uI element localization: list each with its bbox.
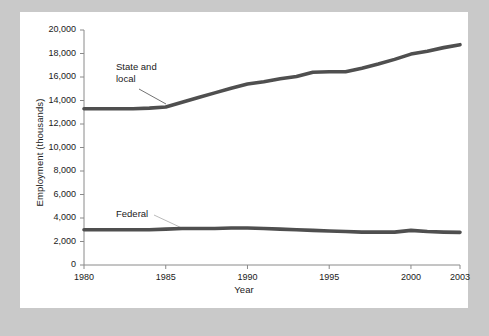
y-axis-tick-label: 12,000 xyxy=(28,118,76,128)
x-axis-tick-label: 1980 xyxy=(61,272,107,282)
y-axis-tick-label: 4,000 xyxy=(28,212,76,222)
x-axis-tick-label: 1995 xyxy=(306,272,352,282)
series-annotation-federal: Federal xyxy=(116,208,148,220)
series-annotation-state-and-local: State and local xyxy=(116,61,157,84)
plot-svg xyxy=(20,12,468,308)
x-axis-tick-label: 2000 xyxy=(388,272,434,282)
chart-card: Employment (thousands) Year State and lo… xyxy=(20,12,468,308)
series-line-federal xyxy=(84,228,460,232)
chart-plot-area: Employment (thousands) Year State and lo… xyxy=(20,12,468,308)
y-axis-tick-label: 8,000 xyxy=(28,165,76,175)
y-axis-tick-label: 0 xyxy=(28,259,76,269)
x-axis-tick-label: 1990 xyxy=(224,272,270,282)
y-axis-tick-label: 20,000 xyxy=(28,24,76,34)
y-axis-tick-label: 6,000 xyxy=(28,189,76,199)
y-axis-tick-label: 18,000 xyxy=(28,48,76,58)
y-axis-tick-label: 2,000 xyxy=(28,236,76,246)
x-axis-ticks xyxy=(84,265,460,269)
y-axis-tick-label: 14,000 xyxy=(28,95,76,105)
x-axis-title: Year xyxy=(20,284,468,295)
x-axis-tick-label: 2003 xyxy=(437,272,483,282)
y-axis-tick-label: 10,000 xyxy=(28,142,76,152)
x-axis-tick-label: 1985 xyxy=(143,272,189,282)
figure-root: Employment (thousands) Year State and lo… xyxy=(0,0,489,336)
leader-line-state-and-local xyxy=(139,89,166,104)
y-axis-tick-label: 16,000 xyxy=(28,71,76,81)
